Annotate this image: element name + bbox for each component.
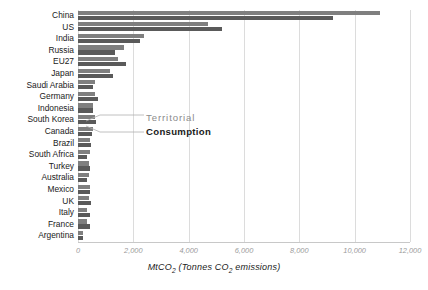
bar-consumption (78, 50, 115, 54)
bar-row (78, 184, 410, 196)
bar-territorial (78, 138, 90, 142)
category-label: Germany (40, 91, 74, 103)
bar-row (78, 56, 410, 68)
bar-territorial (78, 161, 89, 165)
bar-consumption (78, 190, 90, 194)
x-axis-tick-labels: 02,0004,0006,0008,00010,00012,000 (0, 246, 428, 260)
bar-territorial (78, 127, 93, 131)
bar-territorial (78, 231, 83, 235)
category-label: Indonesia (38, 103, 74, 115)
gridline (410, 10, 411, 242)
bar-row (78, 33, 410, 45)
bar-row (78, 22, 410, 34)
axis-title-suffix: emissions) (233, 262, 281, 272)
category-label: South Africa (29, 149, 74, 161)
bar-consumption (78, 74, 113, 78)
bar-territorial (78, 173, 89, 177)
category-label: Italy (59, 207, 74, 219)
category-label: Argentina (38, 230, 74, 242)
x-tick-label: 4,000 (179, 246, 198, 255)
bar-consumption (78, 224, 90, 228)
bar-territorial (78, 11, 380, 15)
bar-consumption (78, 120, 96, 124)
annotation-territorial: Territorial (146, 112, 195, 123)
bar-consumption (78, 97, 98, 101)
category-label: Brazil (53, 138, 74, 150)
bar-row (78, 172, 410, 184)
x-tick-label: 8,000 (290, 246, 309, 255)
bar-territorial (78, 196, 89, 200)
x-axis-line (78, 242, 410, 243)
annotation-consumption: Consumption (146, 126, 211, 137)
bar-consumption (78, 27, 222, 31)
category-label: South Korea (27, 114, 74, 126)
bar-territorial (78, 22, 208, 26)
x-tick-label: 6,000 (235, 246, 254, 255)
bar-row (78, 196, 410, 208)
plot-area (78, 10, 410, 242)
category-label: Saudi Arabia (27, 80, 75, 92)
category-label: UK (62, 196, 74, 208)
bar-consumption (78, 108, 93, 112)
bar-row (78, 161, 410, 173)
axis-title-mid: (Tonnes CO (176, 262, 229, 272)
bar-row (78, 114, 410, 126)
axis-title-prefix: MtCO (148, 262, 172, 272)
bar-rows (78, 10, 410, 242)
bar-territorial (78, 103, 93, 107)
category-label: Canada (45, 126, 74, 138)
bar-row (78, 68, 410, 80)
emissions-bar-chart: ChinaUSIndiaRussiaEU27JapanSaudi ArabiaG… (0, 0, 428, 290)
bar-territorial (78, 69, 110, 73)
bar-territorial (78, 115, 95, 119)
bar-row (78, 219, 410, 231)
bar-consumption (78, 62, 126, 66)
bar-row (78, 45, 410, 57)
x-tick-label: 10,000 (343, 246, 366, 255)
bar-territorial (78, 92, 95, 96)
category-label: China (52, 10, 74, 22)
category-label: Russia (48, 45, 74, 57)
x-tick-label: 0 (76, 246, 80, 255)
x-tick-label: 12,000 (399, 246, 422, 255)
bar-territorial (78, 34, 144, 38)
bar-consumption (78, 166, 90, 170)
category-label: India (56, 33, 74, 45)
bar-row (78, 91, 410, 103)
category-label: EU27 (53, 56, 74, 68)
bar-consumption (78, 213, 90, 217)
bar-territorial (78, 185, 90, 189)
bar-consumption (78, 85, 93, 89)
category-label: Turkey (49, 161, 74, 173)
bar-row (78, 126, 410, 138)
bar-consumption (78, 132, 92, 136)
bar-row (78, 230, 410, 242)
x-axis-title: MtCO2 (Tonnes CO2 emissions) (0, 262, 428, 274)
category-label: Japan (51, 68, 74, 80)
bar-territorial (78, 57, 118, 61)
category-label: Australia (41, 172, 74, 184)
bar-row (78, 80, 410, 92)
category-label: US (62, 22, 74, 34)
bar-consumption (78, 143, 91, 147)
bar-row (78, 207, 410, 219)
bar-territorial (78, 150, 90, 154)
bar-consumption (78, 178, 87, 182)
category-axis-labels: ChinaUSIndiaRussiaEU27JapanSaudi ArabiaG… (0, 10, 74, 242)
bar-territorial (78, 45, 124, 49)
bar-row (78, 149, 410, 161)
bar-consumption (78, 16, 333, 20)
bar-row (78, 10, 410, 22)
bar-territorial (78, 80, 95, 84)
bar-consumption (78, 236, 83, 240)
bar-consumption (78, 201, 91, 205)
bar-territorial (78, 208, 87, 212)
bar-row (78, 103, 410, 115)
bar-consumption (78, 39, 140, 43)
x-tick-label: 2,000 (124, 246, 143, 255)
category-label: Mexico (47, 184, 74, 196)
bar-consumption (78, 155, 87, 159)
bar-territorial (78, 219, 87, 223)
bar-row (78, 138, 410, 150)
category-label: France (48, 219, 74, 231)
